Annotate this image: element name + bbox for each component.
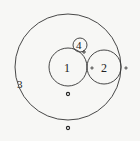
point-icon (125, 67, 127, 69)
label-circle-1: 1 (64, 61, 70, 75)
label-circle-2: 2 (101, 61, 107, 75)
label-circle-3: 3 (17, 78, 23, 90)
tangent-circles-diagram: 1 2 3 4 (0, 0, 140, 141)
center-point-icon (66, 126, 69, 129)
center-point-icon (66, 92, 69, 95)
point-icon (91, 67, 93, 69)
point-icon (83, 51, 85, 53)
label-circle-4: 4 (76, 39, 82, 51)
